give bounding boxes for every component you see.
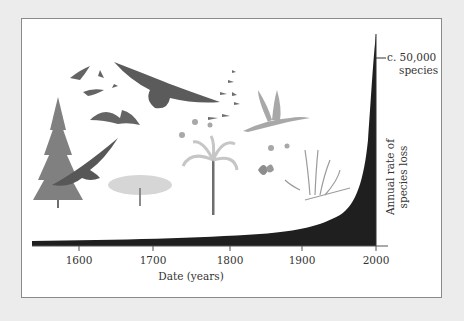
acacia-tree-icon <box>108 175 172 206</box>
palm-tree-icon <box>183 136 237 215</box>
conifer-tree-icon <box>33 97 83 208</box>
vulture-icon <box>114 62 220 108</box>
x-tick-1900: 1900 <box>289 254 316 266</box>
x-axis-label: Date (years) <box>158 270 223 282</box>
x-tick-1700: 1700 <box>140 254 167 266</box>
peak-annotation-line1: c. 50,000 <box>387 51 436 63</box>
species-loss-area <box>32 34 376 246</box>
butterflies-icon <box>179 119 290 175</box>
flamingo-icon <box>243 90 310 132</box>
peak-annotation: c. 50,000 species <box>387 51 438 76</box>
x-tick-2000: 2000 <box>363 254 390 266</box>
y-axis-label-line1: Annual rate of <box>384 139 397 215</box>
peak-annotation-line2: species <box>387 64 438 77</box>
y-axis-label: Annual rate of species loss <box>384 139 409 215</box>
reeds-icon <box>285 150 350 200</box>
x-ticks <box>79 246 376 251</box>
x-tick-1600: 1600 <box>66 254 93 266</box>
illustrations <box>33 62 350 215</box>
small-birds-icon <box>208 70 240 120</box>
x-tick-1800: 1800 <box>217 254 244 266</box>
y-axis-label-line2: species loss <box>396 139 409 215</box>
